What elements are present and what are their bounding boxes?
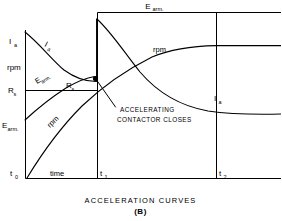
t2-tick-main: t xyxy=(219,169,222,178)
acceleration-curves-figure: E arm. I a rpm R s E arm. R xyxy=(0,0,281,221)
ia-curve-segment-2 xyxy=(97,19,281,114)
t2-tick-label: t 2 xyxy=(219,169,227,180)
acceleration-curves-chart: E arm. I a rpm R s E arm. R xyxy=(0,0,281,221)
t1-tick-sub: 1 xyxy=(105,174,108,180)
top-earm-label: E arm. xyxy=(145,2,164,12)
y-axis-earm-label: E arm. xyxy=(2,121,19,132)
t0-tick-sub: 0 xyxy=(15,174,18,180)
y-axis-ia-label: I a xyxy=(9,37,18,48)
ia-curve-segment-1 xyxy=(25,32,96,82)
y-axis-ia-main: I xyxy=(9,37,11,46)
ia-curve-label-left-sub: a xyxy=(46,46,52,53)
plateau-rs-label: R s xyxy=(66,81,75,92)
y-axis-ia-sub: a xyxy=(14,42,18,48)
ia-curve-label-right: I a xyxy=(214,94,223,105)
earm-curve-label-left-sub: arm. xyxy=(39,74,51,85)
t1-tick-main: t xyxy=(100,169,103,178)
y-axis-earm-sub: arm. xyxy=(8,126,19,132)
contactor-annotation-line1: ACCELERATING xyxy=(120,106,175,113)
contactor-annotation-line2: CONTACTOR CLOSES xyxy=(117,116,192,123)
curves-group xyxy=(25,19,281,178)
figure-caption-panel: (B) xyxy=(0,207,281,216)
y-axis-rs-sub: s xyxy=(14,91,17,97)
annotation-leader-line xyxy=(96,79,116,108)
t2-tick-sub: 2 xyxy=(224,174,227,180)
top-earm-label-main: E xyxy=(145,2,150,11)
rpm-curve-label-left: rpm xyxy=(45,114,61,130)
contactor-annotation: ACCELERATING CONTACTOR CLOSES xyxy=(117,106,192,123)
y-axis-rs-label: R s xyxy=(8,86,17,97)
axes-group xyxy=(26,13,282,179)
ia-curve-label-left: I a xyxy=(42,40,54,53)
ia-curve-label-right-main: I xyxy=(214,94,216,103)
rpm-curve-label-right: rpm xyxy=(153,45,166,54)
plateau-rs-sub: s xyxy=(72,86,75,92)
contactor-close-marker-icon xyxy=(93,76,98,81)
ia-curve-label-right-sub: a xyxy=(219,99,223,105)
top-earm-label-sub: arm. xyxy=(153,6,164,12)
figure-caption-title: ACCELERATION CURVES xyxy=(0,196,281,205)
t0-tick-main: t xyxy=(10,169,13,178)
t1-tick-label: t 1 xyxy=(100,169,108,180)
y-axis-rpm-label: rpm xyxy=(7,63,21,72)
earm-curve-label-left: E arm. xyxy=(33,70,51,87)
t0-tick-label: t 0 xyxy=(10,169,18,180)
x-axis-time-label: time xyxy=(50,169,64,178)
